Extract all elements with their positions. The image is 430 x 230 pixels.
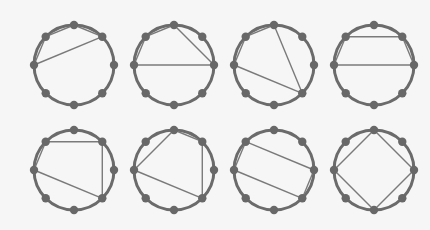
node-top-right	[298, 33, 306, 41]
node-top	[370, 21, 378, 29]
chord	[34, 170, 102, 198]
node-bottom-left	[42, 194, 50, 202]
node-top-left	[342, 33, 350, 41]
node-bottom	[370, 206, 378, 214]
circle-1	[30, 21, 118, 109]
node-top	[270, 126, 278, 134]
node-top	[370, 126, 378, 134]
node-right	[310, 61, 318, 69]
node-bottom	[270, 101, 278, 109]
node-bottom-left	[142, 194, 150, 202]
node-left	[130, 61, 138, 69]
node-top-right	[398, 138, 406, 146]
node-bottom-right	[198, 194, 206, 202]
node-bottom	[270, 206, 278, 214]
circle-8	[330, 126, 418, 214]
node-top	[270, 21, 278, 29]
node-left	[30, 166, 38, 174]
node-top	[170, 126, 178, 134]
circle-7	[230, 126, 318, 214]
node-bottom-left	[42, 89, 50, 97]
node-right	[210, 166, 218, 174]
node-top-right	[98, 33, 106, 41]
node-top-left	[42, 33, 50, 41]
node-right	[410, 166, 418, 174]
node-right	[110, 166, 118, 174]
node-left	[230, 166, 238, 174]
node-bottom	[170, 101, 178, 109]
node-top-right	[98, 138, 106, 146]
node-left	[330, 166, 338, 174]
node-bottom-right	[398, 89, 406, 97]
node-bottom-right	[198, 89, 206, 97]
node-top-right	[298, 138, 306, 146]
node-bottom	[370, 101, 378, 109]
node-bottom-left	[342, 89, 350, 97]
node-top-left	[142, 33, 150, 41]
node-top-right	[198, 138, 206, 146]
node-bottom-right	[298, 89, 306, 97]
circle-6	[130, 126, 218, 214]
chord	[246, 142, 314, 170]
node-top	[170, 21, 178, 29]
circle-3	[230, 21, 318, 109]
node-top	[70, 21, 78, 29]
node-bottom	[70, 101, 78, 109]
node-bottom-right	[298, 194, 306, 202]
circle-2	[130, 21, 218, 109]
node-bottom	[70, 206, 78, 214]
node-top-left	[142, 138, 150, 146]
node-top	[70, 126, 78, 134]
circle-4	[330, 21, 418, 109]
node-left	[330, 61, 338, 69]
node-bottom-right	[398, 194, 406, 202]
node-bottom	[170, 206, 178, 214]
node-bottom-right	[98, 89, 106, 97]
diagram-canvas	[0, 0, 430, 230]
circle-chord-diagram	[0, 0, 430, 230]
node-bottom-left	[242, 194, 250, 202]
node-top-left	[342, 138, 350, 146]
node-bottom-left	[242, 89, 250, 97]
node-right	[210, 61, 218, 69]
node-left	[130, 166, 138, 174]
node-top-left	[42, 138, 50, 146]
node-right	[110, 61, 118, 69]
node-bottom-left	[342, 194, 350, 202]
node-top-left	[242, 138, 250, 146]
node-bottom-left	[142, 89, 150, 97]
node-bottom-right	[98, 194, 106, 202]
node-left	[30, 61, 38, 69]
chord	[134, 170, 202, 198]
node-left	[230, 61, 238, 69]
chord	[234, 170, 302, 198]
node-top-left	[242, 33, 250, 41]
node-top-right	[398, 33, 406, 41]
node-top-right	[198, 33, 206, 41]
node-right	[410, 61, 418, 69]
node-right	[310, 166, 318, 174]
circle-5	[30, 126, 118, 214]
